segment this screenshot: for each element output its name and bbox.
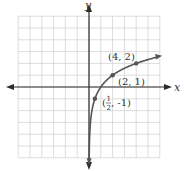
- y-axis-label: y: [84, 0, 92, 12]
- point-label-2-1: (2, 1): [118, 76, 145, 87]
- svg-text:, -1): , -1): [111, 97, 131, 108]
- point-label-4-2: (4, 2): [108, 51, 135, 62]
- point-label-half-neg1: ( 1 2 , -1): [102, 95, 131, 112]
- svg-text:(: (: [102, 97, 106, 108]
- x-axis-label: x: [174, 81, 181, 94]
- graph: y x (4, 2) (2, 1) ( 1 2 , -1): [0, 0, 185, 171]
